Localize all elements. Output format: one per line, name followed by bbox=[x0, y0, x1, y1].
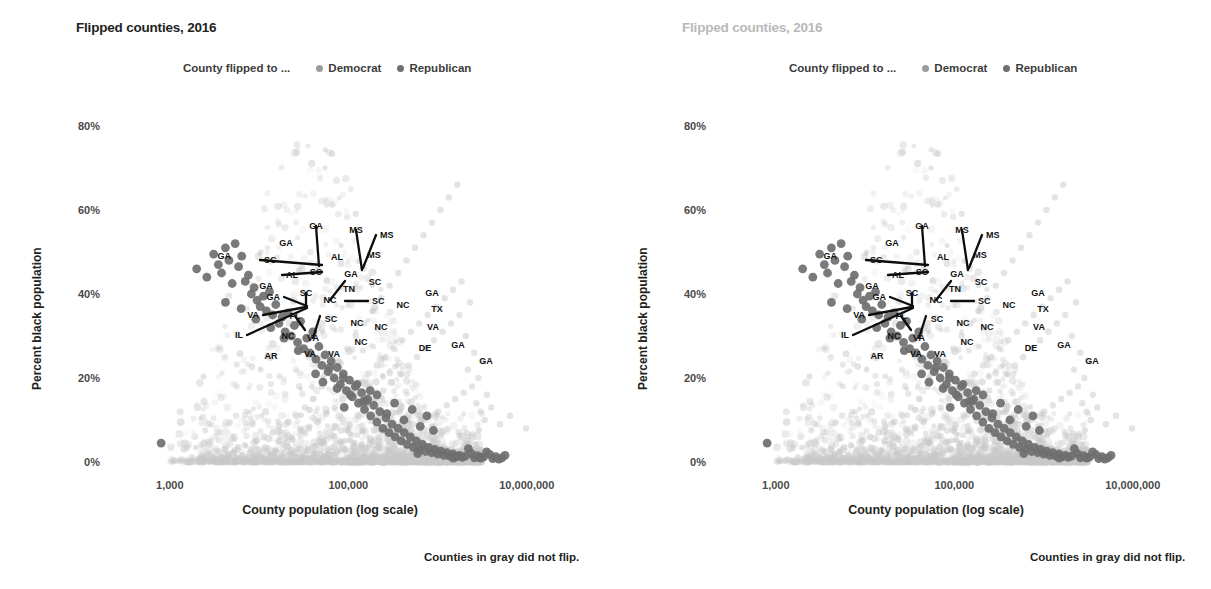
state-label-nc: NC bbox=[961, 337, 974, 347]
state-label-va: VA bbox=[1033, 322, 1045, 332]
state-label-al: AL bbox=[331, 252, 343, 262]
x-tick-label: 1,000 bbox=[762, 479, 790, 491]
state-label-nc: NC bbox=[355, 337, 368, 347]
state-label-va: VA bbox=[328, 349, 340, 359]
y-axis-ticks: 0%20%40%60%80% bbox=[78, 120, 100, 468]
chart-panel-right: Flipped counties, 2016 County flipped to… bbox=[606, 0, 1211, 589]
state-label-ga: GA bbox=[344, 269, 358, 279]
state-label-ga: GA bbox=[950, 269, 964, 279]
scatter-plot-right: GASCGAGAGASCALALMSMSMSGASCTNNCSCNCGASCGA… bbox=[606, 0, 1211, 589]
state-label-ga: GA bbox=[1031, 288, 1045, 298]
state-label-sc: SC bbox=[264, 255, 277, 265]
state-label-nc: NC bbox=[981, 322, 994, 332]
state-label-nc: NC bbox=[397, 300, 410, 310]
state-label-ga: GA bbox=[479, 356, 493, 366]
leader-line bbox=[922, 226, 925, 266]
y-tick-label: 40% bbox=[78, 288, 100, 300]
scatter-plot-left: GASCGAGAGASCALALMSMSMSGASCTNNCSCNCGASCGA… bbox=[0, 0, 605, 589]
state-label-al: AL bbox=[892, 270, 904, 280]
state-label-ga: GA bbox=[451, 340, 465, 350]
state-label-ms: MS bbox=[973, 250, 987, 260]
state-label-sc: SC bbox=[906, 288, 919, 298]
state-label-va: VA bbox=[910, 349, 922, 359]
state-label-ga: GA bbox=[865, 281, 879, 291]
state-label-ga: GA bbox=[824, 251, 838, 261]
state-label-fl: FL bbox=[290, 311, 301, 321]
state-label-va: VA bbox=[307, 333, 319, 343]
y-tick-label: 60% bbox=[684, 204, 706, 216]
state-label-sc: SC bbox=[372, 296, 385, 306]
state-label-tn: TN bbox=[949, 284, 961, 294]
state-label-nc: NC bbox=[324, 295, 337, 305]
y-tick-label: 80% bbox=[684, 120, 706, 132]
state-label-ms: MS bbox=[349, 225, 363, 235]
state-label-de: DE bbox=[419, 343, 432, 353]
state-label-ms: MS bbox=[986, 230, 1000, 240]
state-label-sc: SC bbox=[975, 277, 988, 287]
state-label-nc: NC bbox=[282, 331, 295, 341]
y-tick-label: 0% bbox=[84, 456, 100, 468]
state-label-ga: GA bbox=[259, 281, 273, 291]
state-label-ms: MS bbox=[380, 230, 394, 240]
state-label-fl: FL bbox=[896, 311, 907, 321]
state-label-sc: SC bbox=[325, 314, 338, 324]
leader-line bbox=[316, 226, 319, 266]
state-label-ga: GA bbox=[873, 292, 887, 302]
x-axis-title-secondary: County population (log scale) bbox=[761, 503, 1111, 517]
state-label-ga: GA bbox=[267, 292, 281, 302]
state-label-nc: NC bbox=[930, 295, 943, 305]
state-label-va: VA bbox=[247, 310, 259, 320]
chart-note-secondary: Counties in gray did not flip. bbox=[1030, 551, 1185, 563]
x-axis-ticks: 1,000100,00010,000,000 bbox=[156, 479, 554, 491]
x-tick-label: 1,000 bbox=[156, 479, 184, 491]
state-label-al: AL bbox=[937, 252, 949, 262]
x-axis-ticks: 1,000100,00010,000,000 bbox=[762, 479, 1160, 491]
state-label-ga: GA bbox=[279, 238, 293, 248]
chart-note: Counties in gray did not flip. bbox=[424, 551, 579, 563]
state-label-il: IL bbox=[235, 330, 244, 340]
state-label-va: VA bbox=[304, 349, 316, 359]
y-tick-label: 0% bbox=[690, 456, 706, 468]
x-tick-label: 10,000,000 bbox=[499, 479, 554, 491]
state-label-nc: NC bbox=[375, 322, 388, 332]
x-axis-title: County population (log scale) bbox=[155, 503, 505, 517]
state-label-ga: GA bbox=[915, 221, 929, 231]
state-label-tn: TN bbox=[343, 284, 355, 294]
state-label-nc: NC bbox=[888, 331, 901, 341]
state-label-va: VA bbox=[934, 349, 946, 359]
chart-panel-left: Flipped counties, 2016 County flipped to… bbox=[0, 0, 605, 589]
state-label-sc: SC bbox=[369, 277, 382, 287]
state-label-ms: MS bbox=[955, 225, 969, 235]
y-tick-label: 80% bbox=[78, 120, 100, 132]
state-label-sc: SC bbox=[870, 255, 883, 265]
state-label-ga: GA bbox=[425, 288, 439, 298]
y-tick-label: 40% bbox=[684, 288, 706, 300]
state-label-sc: SC bbox=[978, 296, 991, 306]
state-label-ms: MS bbox=[367, 250, 381, 260]
state-label-ar: AR bbox=[871, 351, 884, 361]
state-label-nc: NC bbox=[1003, 300, 1016, 310]
scatter-svg-left: GASCGAGAGASCALALMSMSMSGASCTNNCSCNCGASCGA… bbox=[0, 0, 605, 589]
state-label-ga: GA bbox=[1085, 356, 1099, 366]
y-axis-ticks: 0%20%40%60%80% bbox=[684, 120, 706, 468]
scatter-svg-right: GASCGAGAGASCALALMSMSMSGASCTNNCSCNCGASCGA… bbox=[606, 0, 1211, 589]
y-tick-label: 60% bbox=[78, 204, 100, 216]
x-tick-label: 10,000,000 bbox=[1105, 479, 1160, 491]
y-tick-label: 20% bbox=[78, 372, 100, 384]
state-label-nc: NC bbox=[351, 318, 364, 328]
state-label-tx: TX bbox=[431, 304, 443, 314]
state-label-sc: SC bbox=[300, 288, 313, 298]
x-tick-label: 100,000 bbox=[934, 479, 974, 491]
state-label-ar: AR bbox=[265, 351, 278, 361]
state-label-sc: SC bbox=[931, 314, 944, 324]
state-label-ga: GA bbox=[218, 251, 232, 261]
state-label-va: VA bbox=[913, 333, 925, 343]
state-label-de: DE bbox=[1025, 343, 1038, 353]
state-label-va: VA bbox=[853, 310, 865, 320]
state-label-sc: SC bbox=[310, 267, 323, 277]
state-label-ga: GA bbox=[885, 238, 899, 248]
x-tick-label: 100,000 bbox=[328, 479, 368, 491]
y-tick-label: 20% bbox=[684, 372, 706, 384]
state-label-al: AL bbox=[286, 270, 298, 280]
state-label-nc: NC bbox=[957, 318, 970, 328]
